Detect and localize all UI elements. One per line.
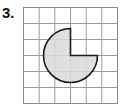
grid-figure xyxy=(0,0,123,111)
